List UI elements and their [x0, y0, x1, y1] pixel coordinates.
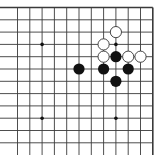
- board-background: [0, 0, 159, 155]
- white-stone-icon: [110, 26, 121, 37]
- star-point-icon: [114, 116, 118, 120]
- black-stone-icon: [98, 63, 109, 74]
- white-stone-icon: [135, 51, 146, 62]
- star-point-icon: [40, 43, 44, 47]
- white-stone-icon: [98, 39, 109, 50]
- white-stone-icon: [98, 51, 109, 62]
- black-stone-icon: [123, 63, 134, 74]
- black-stone-icon: [73, 63, 84, 74]
- go-board-grid: [0, 0, 159, 155]
- go-board: [0, 0, 159, 155]
- star-point-icon: [114, 43, 118, 47]
- white-stone-icon: [123, 51, 134, 62]
- black-stone-icon: [110, 51, 121, 62]
- star-point-icon: [40, 116, 44, 120]
- black-stone-icon: [110, 76, 121, 87]
